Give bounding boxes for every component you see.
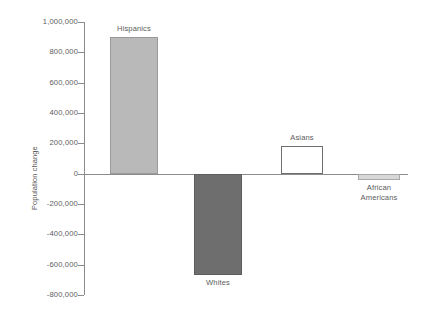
y-tick-label: -600,000 bbox=[47, 260, 78, 269]
bar-asians[interactable] bbox=[281, 146, 323, 173]
bar-label: Whites bbox=[173, 278, 263, 288]
y-tick-mark bbox=[78, 295, 84, 296]
bar-whites[interactable] bbox=[194, 174, 242, 276]
bar-label: Hispanics bbox=[89, 24, 179, 34]
bar-hispanics[interactable] bbox=[110, 37, 158, 174]
bar-label: Asians bbox=[257, 133, 347, 143]
bar-african-americans[interactable] bbox=[358, 174, 400, 181]
bar-label: AfricanAmericans bbox=[334, 183, 424, 203]
y-axis-title-text: Population change bbox=[30, 146, 39, 210]
y-tick-label: 400,000 bbox=[50, 108, 79, 117]
y-tick-label: 1,000,000 bbox=[43, 17, 78, 26]
y-tick-label: -800,000 bbox=[47, 290, 78, 299]
bar-chart: Population change 1,000,000800,000600,00… bbox=[0, 0, 432, 321]
y-tick-label: 200,000 bbox=[50, 138, 79, 147]
y-axis-spine bbox=[84, 22, 85, 295]
y-tick-label: 600,000 bbox=[50, 78, 79, 87]
y-tick-label: -400,000 bbox=[47, 229, 78, 238]
y-tick-label: 800,000 bbox=[50, 47, 79, 56]
y-tick-label: -200,000 bbox=[47, 199, 78, 208]
